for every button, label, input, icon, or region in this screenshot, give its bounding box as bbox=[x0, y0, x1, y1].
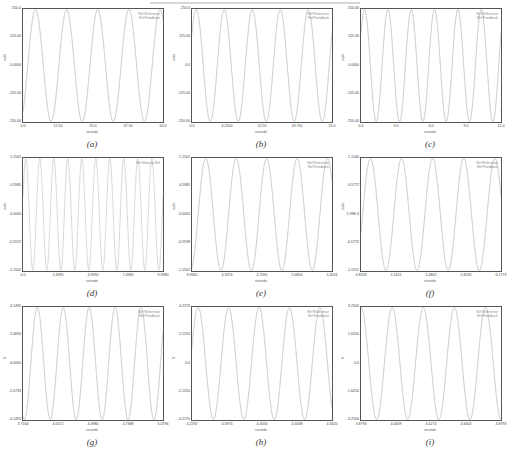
plot-area: Ref ReferenceRef Feedback bbox=[22, 306, 164, 421]
x-tick-label: 18.750 bbox=[292, 124, 303, 128]
y-tick-label: 1.1540 bbox=[338, 155, 359, 159]
x-tick-label: 9.9980 bbox=[158, 273, 169, 277]
x-tick-label: 6.1773 bbox=[496, 273, 507, 277]
plot-area: Ref ReferenceRef Feedback bbox=[360, 157, 502, 272]
x-tick-label: 4.7388 bbox=[123, 422, 134, 426]
y-tick-label: -0.5598 bbox=[169, 240, 190, 244]
x-tick-label: 25.0 bbox=[329, 124, 336, 128]
x-tick-label: 2.4995 bbox=[53, 273, 64, 277]
chart-panel-a: 250.0125.000.0000-125.00-250.00rad/sRef … bbox=[0, 6, 169, 155]
y-tick-label: -125.00 bbox=[338, 91, 359, 95]
chart-grid: 250.0125.000.0000-125.00-250.00rad/sRef … bbox=[0, 6, 507, 453]
y-tick-label: -0.5572 bbox=[0, 240, 21, 244]
chart-panel-b: 250.0125.000.0-125.00-250.00rad/sRef Ref… bbox=[169, 6, 338, 155]
y-tick-label: 125.00 bbox=[169, 34, 190, 38]
series-line bbox=[192, 10, 332, 122]
x-tick-label: 3.7164 bbox=[18, 422, 29, 426]
chart-legend: Ref ReferenceRef Feedback bbox=[307, 161, 329, 169]
chart-legend: Ref ReferenceRef Feedback bbox=[476, 161, 498, 169]
legend-entry: Ref Feedback bbox=[476, 16, 498, 20]
y-tick-label: 2.0690 bbox=[0, 332, 21, 336]
x-tick-label: 4.9990 bbox=[88, 273, 99, 277]
x-tick-label: 3.9662 bbox=[187, 273, 198, 277]
sine-wave-svg bbox=[23, 307, 163, 420]
series-line bbox=[192, 159, 332, 271]
x-tick-label: 5.1622 bbox=[391, 273, 402, 277]
panel-caption: (h) bbox=[256, 437, 267, 447]
series-line bbox=[361, 308, 501, 420]
y-axis-label: N bbox=[3, 357, 7, 359]
x-axis-label: seconds bbox=[86, 130, 98, 134]
y-tick-label: 0.0000 bbox=[0, 63, 21, 67]
chart-panel-i: 3.25001.62500.0-1.6250-3.2500NRef Refere… bbox=[338, 304, 507, 453]
y-tick-label: 2.1250 bbox=[169, 332, 190, 336]
y-tick-label: 0.5985 bbox=[169, 183, 190, 187]
y-tick-label: 250.0 bbox=[0, 6, 21, 10]
y-axis-label: N bbox=[341, 357, 345, 359]
chart-legend: Ref ReferenceRef Feedback bbox=[138, 310, 160, 318]
sine-wave-svg bbox=[192, 158, 332, 271]
legend-entry: Ref Feedback bbox=[476, 165, 498, 169]
chart-panel-f: 1.15400.57721.99E-4-0.5772-1.1552rad/sRe… bbox=[338, 155, 507, 304]
x-tick-label: 6.0 bbox=[429, 124, 434, 128]
x-tick-label: 4.0609 bbox=[391, 422, 402, 426]
x-tick-label: 4.3374 bbox=[222, 273, 233, 277]
y-tick-label: -2.0733 bbox=[0, 389, 21, 393]
x-tick-label: 4.0572 bbox=[53, 422, 64, 426]
sine-wave-svg bbox=[192, 9, 332, 122]
y-tick-label: -250.00 bbox=[338, 119, 359, 123]
chart-legend: Ref ReferenceRef Feedback bbox=[476, 310, 498, 318]
y-tick-label: 3.2500 bbox=[338, 304, 359, 308]
chart-panel-e: 1.15020.59850.0000-0.5598-1.1502rad/sRef… bbox=[169, 155, 338, 304]
x-tick-label: 4.4274 bbox=[426, 422, 437, 426]
x-tick-label: 5.0796 bbox=[158, 422, 169, 426]
y-tick-label: -125.00 bbox=[169, 91, 190, 95]
x-tick-label: 4.5620 bbox=[327, 422, 338, 426]
legend-entry: Ref Velocity Ref bbox=[136, 161, 160, 165]
y-tick-label: 0.5985 bbox=[0, 183, 21, 187]
series-line bbox=[192, 10, 332, 122]
y-tick-label: 125.00 bbox=[0, 34, 21, 38]
x-tick-label: 4.3974 bbox=[222, 422, 233, 426]
x-tick-label: 50.0 bbox=[160, 124, 167, 128]
sine-wave-svg bbox=[192, 307, 332, 420]
y-tick-label: -3.2500 bbox=[338, 417, 359, 421]
x-tick-label: 0.0 bbox=[21, 273, 26, 277]
panel-caption: (a) bbox=[87, 139, 98, 149]
chart-legend: Ref ReferenceRef Feedback bbox=[476, 12, 498, 20]
x-tick-label: 3.0 bbox=[394, 124, 399, 128]
x-axis-label: seconds bbox=[255, 428, 267, 432]
series-line bbox=[23, 10, 163, 122]
y-tick-label: 4.2270 bbox=[169, 304, 190, 308]
y-tick-label: 1.1502 bbox=[0, 155, 21, 159]
y-tick-label: 0.0000 bbox=[0, 212, 21, 216]
plot-area: Ref ReferenceRef Feedback bbox=[360, 306, 502, 421]
x-tick-label: 7.4985 bbox=[123, 273, 134, 277]
legend-entry: Ref Feedback bbox=[138, 314, 160, 318]
x-tick-label: 4.5638 bbox=[292, 422, 303, 426]
chart-legend: Ref ReferenceRef Feedback bbox=[307, 310, 329, 318]
chart-legend: Ref ReferenceRef Feedback bbox=[138, 12, 160, 20]
legend-entry: Ref Feedback bbox=[307, 16, 329, 20]
x-tick-label: 37.50 bbox=[124, 124, 133, 128]
sine-wave-svg bbox=[361, 307, 501, 420]
plot-area: Ref ReferenceRef Feedback bbox=[191, 157, 333, 272]
y-axis-label: rad/s bbox=[3, 54, 7, 61]
y-axis-label: rad/s bbox=[172, 203, 176, 210]
x-tick-label: 3.8793 bbox=[356, 422, 367, 426]
chart-legend: Ref Velocity Ref bbox=[136, 161, 160, 165]
y-tick-label: 1.99E-4 bbox=[338, 212, 359, 216]
series-line bbox=[23, 10, 163, 122]
y-tick-label: -250.00 bbox=[169, 119, 190, 123]
panel-caption: (g) bbox=[87, 437, 98, 447]
x-axis-label: seconds bbox=[86, 428, 98, 432]
plot-area: Ref ReferenceRef Feedback bbox=[191, 306, 333, 421]
legend-entry: Ref Feedback bbox=[138, 16, 160, 20]
sine-wave-svg bbox=[23, 158, 163, 271]
series-line bbox=[23, 159, 163, 271]
plot-area: Ref Velocity Ref bbox=[22, 157, 164, 272]
y-tick-label: 0.0 bbox=[338, 361, 359, 365]
x-tick-label: 25.0 bbox=[90, 124, 97, 128]
y-tick-label: 1.1502 bbox=[169, 155, 190, 159]
series-line bbox=[192, 308, 332, 420]
